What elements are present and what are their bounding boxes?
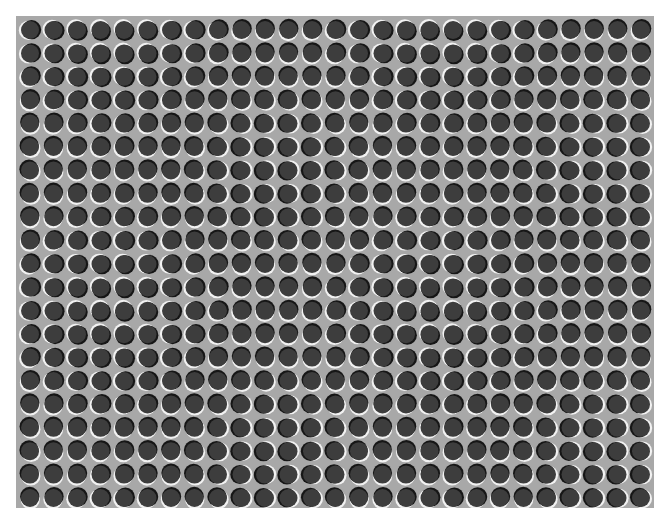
grid-circle [230, 137, 252, 156]
grid-circle [489, 254, 511, 274]
grid-circle [537, 229, 557, 251]
grid-circle [559, 441, 581, 460]
grid-circle [277, 465, 299, 485]
grid-circle [277, 184, 299, 204]
grid-circle [512, 301, 534, 321]
grid-circle [113, 231, 135, 250]
grid-circle [185, 393, 205, 415]
grid-circle [279, 19, 299, 41]
grid-circle [255, 323, 274, 345]
grid-circle [631, 346, 650, 368]
grid-circle [230, 184, 252, 203]
grid-circle [583, 184, 605, 204]
grid-circle [254, 465, 276, 485]
grid-circle [301, 465, 323, 484]
grid-circle [373, 183, 392, 205]
grid-circle [559, 137, 581, 156]
grid-circle [349, 112, 369, 134]
grid-circle [277, 394, 299, 414]
grid-circle [208, 229, 228, 251]
grid-circle [326, 370, 346, 392]
grid-circle [230, 161, 252, 180]
grid-circle [559, 418, 581, 437]
grid-circle [606, 488, 628, 508]
grid-circle [160, 348, 182, 368]
grid-circle [302, 66, 321, 88]
grid-circle [230, 441, 252, 460]
grid-circle [606, 137, 628, 157]
grid-circle [44, 183, 63, 205]
grid-circle [254, 114, 276, 134]
grid-circle [254, 207, 276, 227]
grid-circle [490, 463, 509, 485]
grid-circle [442, 371, 464, 390]
grid-circle [185, 112, 205, 134]
grid-circle [42, 254, 64, 274]
grid-circle [279, 300, 299, 322]
grid-circle [232, 66, 251, 88]
grid-circle [608, 42, 627, 64]
grid-circle [301, 441, 323, 460]
grid-circle [254, 418, 276, 438]
grid-circle [418, 231, 440, 250]
grid-circle [537, 89, 557, 111]
grid-circle [230, 418, 252, 437]
grid-circle [584, 276, 603, 298]
grid-circle [183, 301, 205, 321]
grid-circle [301, 184, 323, 203]
grid-circle [302, 253, 321, 275]
grid-circle [371, 348, 393, 368]
grid-circle [20, 393, 40, 415]
grid-circle [561, 66, 580, 88]
grid-circle [514, 393, 534, 415]
grid-circle [20, 206, 40, 228]
grid-circle [584, 42, 603, 64]
grid-circle [583, 394, 605, 414]
grid-circle [161, 417, 180, 439]
grid-circle [279, 276, 298, 298]
grid-circle [373, 159, 393, 181]
grid-circle [490, 417, 509, 439]
grid-circle [630, 441, 652, 460]
grid-circle [160, 67, 182, 87]
grid-circle [371, 254, 393, 274]
grid-circle [89, 371, 111, 390]
grid-circle [490, 183, 509, 205]
circle-grid [16, 16, 654, 508]
grid-circle [490, 440, 510, 462]
grid-circle [537, 370, 557, 392]
grid-circle [630, 137, 652, 156]
grid-circle [208, 89, 228, 111]
grid-circle [630, 418, 652, 437]
grid-circle [630, 465, 652, 484]
grid-circle [606, 465, 628, 485]
grid-circle [161, 463, 180, 485]
grid-circle [208, 370, 228, 392]
grid-circle [302, 346, 321, 368]
grid-circle [512, 20, 534, 40]
grid-circle [255, 42, 274, 64]
grid-circle [301, 161, 323, 180]
grid-circle [349, 206, 369, 228]
grid-circle [631, 253, 650, 275]
grid-circle [161, 159, 181, 181]
grid-circle [606, 114, 628, 134]
grid-circle [490, 136, 509, 158]
grid-circle [326, 229, 346, 251]
grid-circle [608, 300, 628, 322]
grid-circle [561, 346, 580, 368]
grid-circle [559, 161, 581, 180]
grid-circle [279, 323, 298, 345]
grid-circle [630, 184, 652, 203]
grid-circle [490, 159, 510, 181]
grid-circle [442, 91, 464, 110]
grid-circle [255, 300, 275, 322]
grid-circle [584, 300, 604, 322]
grid-circle [301, 137, 323, 156]
grid-circle [277, 137, 299, 157]
grid-circle [373, 440, 393, 462]
grid-circle [44, 440, 64, 462]
grid-circle [583, 137, 605, 157]
grid-circle [606, 418, 628, 438]
grid-circle [608, 19, 628, 41]
